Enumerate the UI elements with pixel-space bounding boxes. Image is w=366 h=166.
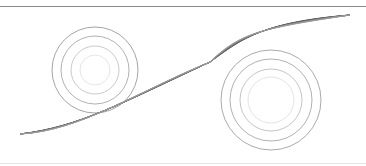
ring-3: [240, 69, 302, 131]
ribbon-strand: [20, 15, 350, 134]
twisted-ribbon: [20, 15, 350, 134]
circle-group-left: [52, 27, 138, 113]
ribbon-strand: [20, 15, 350, 134]
ribbon-strand: [20, 15, 350, 134]
ribbon-strand: [20, 15, 350, 134]
ribbon-strand: [20, 15, 350, 134]
diagram-canvas: [0, 0, 366, 166]
ribbon-strand: [20, 15, 350, 134]
circle-group-right: [221, 50, 321, 150]
ring-1: [221, 50, 321, 150]
ring-4: [248, 77, 294, 123]
ribbon-strand: [20, 15, 350, 134]
ribbon-strand: [20, 15, 350, 134]
ribbon-strand: [20, 15, 350, 134]
ring-2: [230, 59, 312, 141]
ring-1: [52, 27, 138, 113]
ribbon-strand: [20, 15, 350, 134]
ribbon-strand: [20, 15, 350, 134]
ribbon-strand: [20, 15, 350, 134]
ring-4: [80, 55, 110, 85]
ribbon-strand: [20, 15, 350, 134]
ribbon-strand: [20, 15, 350, 134]
concentric-circles: [52, 27, 321, 150]
ribbon-strand: [20, 15, 350, 134]
ribbon-strand: [20, 15, 350, 134]
ring-3: [71, 46, 119, 94]
